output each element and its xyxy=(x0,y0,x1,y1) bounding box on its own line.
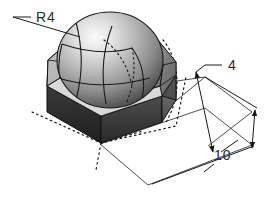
technical-drawing-canvas: R4 4 10 xyxy=(0,0,269,200)
annotation-height: 4 xyxy=(196,57,237,73)
dimension-line-width-10 xyxy=(252,110,255,148)
hidden-spoke-down xyxy=(96,143,101,170)
leader-line-width-lower xyxy=(204,164,214,172)
dimension-extension-width-lower xyxy=(152,146,254,184)
leader-line-height xyxy=(196,65,222,72)
label-height: 4 xyxy=(228,57,237,73)
drawing-svg: R4 4 10 xyxy=(0,0,269,200)
dimension-extension-width-upper xyxy=(205,77,257,108)
spherical-dome xyxy=(57,12,163,108)
label-radius: R4 xyxy=(36,9,56,25)
sphere-surface xyxy=(57,12,163,108)
label-width: 10 xyxy=(214,147,232,163)
